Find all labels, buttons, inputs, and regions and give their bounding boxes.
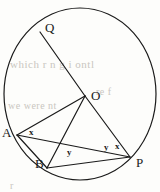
point-label-O: O (91, 89, 100, 102)
main-circle (4, 8, 156, 180)
angle-label-x-at-A: x (29, 128, 34, 137)
segment-BP (47, 157, 130, 168)
geometry-figure: which r n g i ontl we were nt re f r Q O… (0, 0, 160, 192)
point-label-A: A (2, 126, 11, 139)
point-label-Q: Q (45, 21, 54, 34)
angle-label-y-at-B: y (67, 148, 72, 157)
point-label-P: P (136, 156, 143, 169)
angle-label-x-at-P: x (115, 142, 120, 151)
segment-QO (40, 32, 85, 96)
angle-label-y-at-P: y (104, 143, 109, 152)
point-label-B: B (35, 157, 44, 170)
